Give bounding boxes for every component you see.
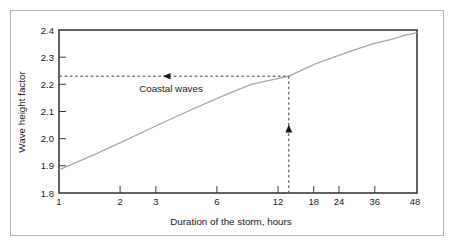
y-tick-label-2.2: 2.2: [41, 79, 54, 90]
chart-canvas: 2.4 2.3 2.2 2.1 2.0 1.9 1.8 1 2 3 6 12 1…: [0, 0, 455, 245]
plot-area-frame: [59, 30, 417, 193]
figure-root: 2.4 2.3 2.2 2.1 2.0 1.9 1.8 1 2 3 6 12 1…: [0, 0, 455, 245]
x-tick-label-1: 1: [56, 196, 61, 207]
x-tick-label-36: 36: [370, 196, 381, 207]
y-tick-label-1.8: 1.8: [41, 188, 54, 199]
x-tick-label-3: 3: [153, 196, 158, 207]
coastal-waves-annotation: Coastal waves: [139, 83, 203, 94]
y-tick-label-2.4: 2.4: [41, 25, 54, 36]
x-tick-label-6: 6: [214, 196, 219, 207]
y-tick-label-1.9: 1.9: [41, 160, 54, 171]
x-tick-label-18: 18: [308, 196, 319, 207]
y-tick-label-2.0: 2.0: [41, 133, 54, 144]
x-tick-label-2: 2: [117, 196, 122, 207]
y-tick-label-2.1: 2.1: [41, 106, 54, 117]
y-tick-label-2.3: 2.3: [41, 52, 54, 63]
x-tick-label-12: 12: [273, 196, 284, 207]
x-tick-label-24: 24: [334, 196, 345, 207]
x-tick-label-48: 48: [410, 196, 421, 207]
y-axis-title: Wave height factor: [16, 71, 27, 153]
x-axis-title: Duration of the storm, hours: [170, 216, 292, 227]
